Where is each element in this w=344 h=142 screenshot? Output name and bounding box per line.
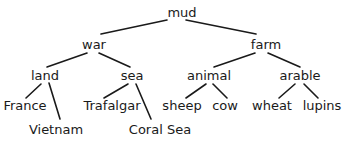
- edge-war-sea: [99, 53, 130, 67]
- edge-sea-trafalgar: [104, 84, 128, 98]
- node-france: France: [3, 99, 46, 112]
- tree-diagram: mudwarfarmlandseaanimalarableFranceVietn…: [0, 0, 344, 142]
- edge-farm-arable: [268, 53, 300, 67]
- edge-war-land: [47, 53, 87, 67]
- edge-land-vietnam: [49, 83, 60, 119]
- node-vietnam: Vietnam: [29, 123, 83, 136]
- node-sea: sea: [121, 69, 144, 82]
- node-land: land: [31, 69, 59, 82]
- edge-arable-wheat: [279, 84, 295, 98]
- edge-animal-cow: [213, 84, 227, 98]
- edge-mud-war: [101, 20, 167, 34]
- node-sheep: sheep: [162, 99, 201, 112]
- node-trafalgar: Trafalgar: [83, 99, 140, 112]
- node-arable: arable: [279, 69, 320, 82]
- node-war: war: [82, 38, 106, 51]
- edge-mud-farm: [186, 20, 256, 34]
- edge-land-france: [26, 84, 41, 98]
- node-cow: cow: [212, 99, 238, 112]
- node-wheat: wheat: [252, 99, 292, 112]
- node-animal: animal: [187, 69, 231, 82]
- node-coral-sea: Coral Sea: [129, 123, 191, 136]
- edge-farm-animal: [214, 53, 255, 67]
- edge-animal-sheep: [186, 84, 206, 98]
- node-lupins: lupins: [303, 99, 342, 112]
- edge-arable-lupins: [304, 84, 318, 98]
- node-mud: mud: [167, 6, 196, 19]
- node-farm: farm: [251, 38, 281, 51]
